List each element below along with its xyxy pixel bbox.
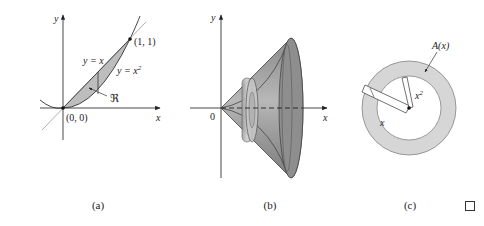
point-label: (1, 1) bbox=[134, 36, 156, 48]
panel-a: y x y = x y = x2 ℜ (0, 0) (1, 1) bbox=[40, 13, 161, 140]
caption-b: (b) bbox=[264, 199, 277, 211]
panel-c: A(x) x x2 bbox=[362, 40, 456, 155]
panel-b: y x 0 bbox=[190, 12, 328, 178]
x-label-b: x bbox=[322, 112, 328, 123]
y-label-b: y bbox=[210, 12, 216, 23]
outer-radius-label: x bbox=[379, 117, 385, 128]
label-y-equals-x-squared: y = x2 bbox=[116, 64, 142, 76]
point-1-1 bbox=[128, 37, 132, 41]
caption-c: (c) bbox=[404, 199, 416, 211]
center-point bbox=[407, 106, 411, 110]
origin-point bbox=[61, 106, 65, 110]
end-of-proof-mark bbox=[465, 201, 475, 211]
area-label: A(x) bbox=[431, 40, 450, 52]
y-label-a: y bbox=[53, 13, 59, 24]
caption-a: (a) bbox=[92, 199, 104, 211]
origin-label: (0, 0) bbox=[66, 112, 88, 124]
figure-canvas: y x y = x y = x2 ℜ (0, 0) (1, 1) y x 0 bbox=[0, 0, 484, 226]
region-label: ℜ bbox=[110, 92, 119, 104]
origin-label-b: 0 bbox=[210, 111, 215, 122]
x-label-a: x bbox=[155, 112, 161, 123]
label-y-equals-x: y = x bbox=[82, 55, 104, 66]
cone-base-ellipse bbox=[279, 38, 303, 178]
